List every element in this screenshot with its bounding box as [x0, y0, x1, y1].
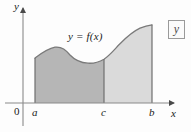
tick-label-a: a — [32, 107, 38, 118]
shaded-region-left — [35, 47, 104, 103]
function-area-plot — [0, 0, 191, 132]
x-axis-label: x — [171, 108, 176, 119]
y-axis-label: y — [14, 1, 19, 12]
curve-equation-label: y = f(x) — [68, 30, 103, 42]
tick-label-c: c — [101, 107, 106, 118]
figure-container: y = f(x) y x 0 a c b y — [0, 0, 191, 132]
corner-badge-y: y — [168, 20, 185, 39]
tick-label-b: b — [149, 107, 155, 118]
origin-label: 0 — [14, 106, 20, 117]
